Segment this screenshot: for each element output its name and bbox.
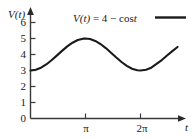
equation-four: 4 bbox=[102, 12, 108, 24]
y-tick-label-1: 1 bbox=[12, 97, 26, 108]
y-tick-label-0: 0 bbox=[12, 113, 26, 124]
y-axis-arrow-icon bbox=[27, 7, 34, 15]
x-tick-label-pi: π bbox=[75, 123, 97, 134]
curve-line bbox=[31, 39, 178, 71]
equation-cos: cos bbox=[119, 12, 134, 24]
x-tick-marks bbox=[85, 114, 140, 119]
y-tick-marks bbox=[31, 23, 36, 103]
equation-var-t: t bbox=[134, 12, 137, 24]
y-tick-label-3: 3 bbox=[12, 65, 26, 76]
equation-equals: = bbox=[93, 12, 99, 24]
equation-close-paren: ) bbox=[86, 12, 90, 24]
y-tick-label-2: 2 bbox=[12, 81, 26, 92]
chart-figure: V(t) t 6 5 4 3 2 1 0 π 2π V(t) = 4 − cos… bbox=[0, 0, 194, 139]
x-axis-label: t bbox=[185, 122, 188, 133]
x-tick-label-2pi: 2π bbox=[131, 123, 153, 134]
y-tick-label-6: 6 bbox=[12, 17, 26, 28]
equation-v: V bbox=[73, 12, 80, 24]
y-tick-label-4: 4 bbox=[12, 49, 26, 60]
equation-annotation: V(t) = 4 − cost bbox=[73, 12, 137, 24]
equation-minus: − bbox=[110, 12, 116, 24]
y-tick-label-5: 5 bbox=[12, 33, 26, 44]
